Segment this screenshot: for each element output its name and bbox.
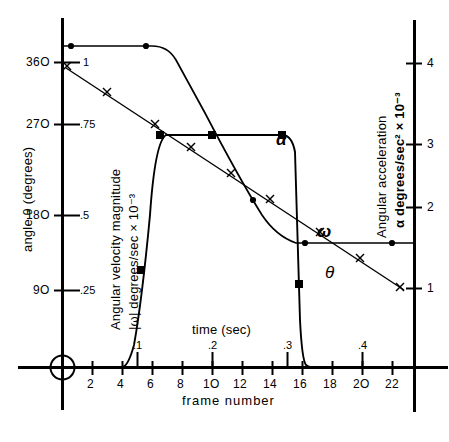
tick-label-alpha-4: 4 xyxy=(427,56,434,70)
tick-label-frame-4: 4 xyxy=(117,377,124,391)
tick-label-left-90: 9O xyxy=(33,283,50,297)
alpha-point xyxy=(295,280,303,288)
time-axis-title: time (sec) xyxy=(192,322,251,337)
y-axis-right-outer-title: Angular acceleration xyxy=(374,115,389,238)
tick-label-frame-12: 12 xyxy=(233,377,247,391)
tick-label-left-270: 27O xyxy=(26,117,50,131)
left-axis-ticks xyxy=(54,63,80,291)
omega-point xyxy=(389,240,395,246)
tick-label-omega-025: .25 xyxy=(80,284,95,296)
tick-label-time-02: .2 xyxy=(208,339,217,351)
figure-canvas: 36O 27O 18O 9O 1 .75 .5 .25 4 3 2 1 2 4 … xyxy=(0,0,449,442)
y-axis-left-inner-title-line1: Angular velocity magnitude xyxy=(108,169,123,330)
tick-label-frame-2: 2 xyxy=(87,377,94,391)
tick-label-frame-16: 16 xyxy=(293,377,307,391)
tick-label-frame-10: 1O xyxy=(203,377,220,391)
omega-point xyxy=(302,240,308,246)
tick-label-alpha-3: 3 xyxy=(427,137,434,151)
tick-label-time-01: .1 xyxy=(133,339,142,351)
omega-point xyxy=(68,43,74,49)
y-axis-left-outer-title: angle θ (degrees) xyxy=(20,147,35,252)
x-axis-title: frame number xyxy=(182,393,275,408)
tick-label-alpha-1: 1 xyxy=(427,281,434,295)
tick-label-frame-6: 6 xyxy=(147,377,154,391)
tick-label-frame-22: 22 xyxy=(385,377,399,391)
tick-label-alpha-2: 2 xyxy=(427,200,434,214)
tick-label-time-04: .4 xyxy=(358,339,367,351)
omega-point xyxy=(143,43,149,49)
omega-point xyxy=(250,197,256,203)
tick-label-frame-8: 8 xyxy=(177,377,184,391)
tick-label-omega-05: .5 xyxy=(80,209,89,221)
theta-point xyxy=(396,283,404,291)
time-axis-ticks xyxy=(138,352,363,366)
tick-label-frame-14: 14 xyxy=(263,377,277,391)
y-axis-left-inner-title-line2: |ω| degrees/sec × 10⁻³ xyxy=(126,194,141,330)
tick-label-omega-075: .75 xyxy=(80,118,95,130)
curve-label-omega: ω xyxy=(317,222,331,242)
alpha-point xyxy=(208,131,216,139)
tick-label-frame-20: 2O xyxy=(353,377,370,391)
tick-label-left-360: 36O xyxy=(26,55,50,69)
alpha-point xyxy=(156,131,164,139)
curve-label-alpha: α xyxy=(276,130,287,150)
curve-label-theta: θ xyxy=(325,263,334,283)
tick-label-omega-1: 1 xyxy=(83,56,89,68)
y-axis-right-inner-title: α degrees/sec² × 10⁻³ xyxy=(392,92,407,228)
tick-label-time-03: .3 xyxy=(283,339,292,351)
tick-label-frame-18: 18 xyxy=(323,377,337,391)
